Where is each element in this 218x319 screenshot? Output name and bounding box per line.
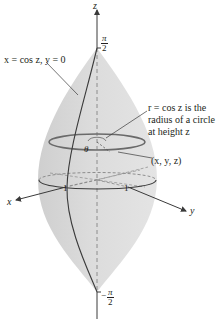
angle-theta-label: θ xyxy=(84,144,88,155)
z-top-tick-label: π 2 xyxy=(101,34,108,53)
z-axis-label: z xyxy=(93,0,97,11)
radius-annotation-line3: at height z xyxy=(148,126,190,137)
x-tick-label: 1 xyxy=(63,183,68,194)
z-bottom-tick-sign: − xyxy=(101,290,106,301)
y-axis-label: y xyxy=(190,205,194,216)
x-axis-label: x xyxy=(7,196,11,207)
point-label: (x, y, z) xyxy=(151,155,181,166)
radius-annotation-line1: r = cos z is the xyxy=(148,102,206,113)
surface-diagram xyxy=(0,0,218,319)
radius-annotation-line2: radius of a circle xyxy=(148,114,215,125)
generating-curve-label: x = cos z, y = 0 xyxy=(4,54,66,65)
z-bottom-tick-label: π 2 xyxy=(107,288,114,307)
y-tick-label: 1 xyxy=(124,183,129,194)
